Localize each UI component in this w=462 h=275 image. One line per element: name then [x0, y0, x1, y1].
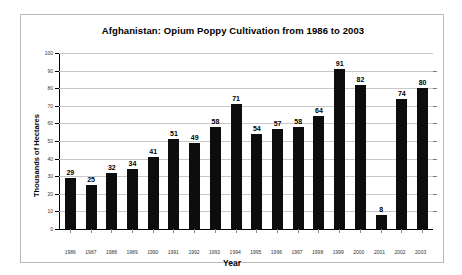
y-axis-tick-right: [433, 71, 437, 72]
x-axis-tick: [277, 229, 278, 233]
y-axis-tick-label: 100: [45, 50, 53, 56]
x-axis-tick: [381, 229, 382, 233]
y-axis-tick: [55, 229, 59, 230]
y-axis-tick: [55, 176, 59, 177]
bar[interactable]: 29: [65, 178, 76, 229]
x-axis-tick: [132, 229, 133, 233]
x-tick-slot: [350, 229, 371, 233]
y-axis-tick-right: [433, 106, 437, 107]
bar-slot: 91: [329, 53, 350, 229]
y-axis-tick-label: 50: [47, 138, 53, 144]
y-axis-tick-label: 80: [47, 85, 53, 91]
bar-value-label: 58: [294, 118, 302, 125]
y-axis-tick-label: 0: [50, 226, 53, 232]
x-tick-slot: [81, 229, 102, 233]
x-axis-tick-label: 1993: [204, 249, 225, 255]
bar[interactable]: 71: [231, 104, 242, 229]
y-axis-title: Thousands of Hectares: [30, 67, 42, 243]
bar[interactable]: 80: [417, 88, 428, 229]
x-tick-slot: [371, 229, 392, 233]
x-tick-slot: [122, 229, 143, 233]
bar[interactable]: 82: [355, 85, 366, 229]
bar[interactable]: 32: [106, 173, 117, 229]
x-tick-slot: [309, 229, 330, 233]
y-axis-tick: [55, 123, 59, 124]
bar[interactable]: 8: [376, 215, 387, 229]
x-tick-slot: [412, 229, 433, 233]
x-axis-tick: [70, 229, 71, 233]
bar-slot: 82: [350, 53, 371, 229]
x-axis-tick-label: 1986: [60, 249, 81, 255]
y-axis-tick: [55, 141, 59, 142]
y-axis-tick-right: [433, 194, 437, 195]
x-axis-tick: [111, 229, 112, 233]
bar[interactable]: 25: [86, 185, 97, 229]
bar-slot: 32: [101, 53, 122, 229]
y-axis-tick-right: [433, 211, 437, 212]
bar-slot: 41: [143, 53, 164, 229]
bar[interactable]: 49: [189, 143, 200, 229]
bar-value-label: 54: [253, 125, 261, 132]
y-axis-tick-label: 70: [47, 103, 53, 109]
x-axis-tick-label: 1987: [81, 249, 102, 255]
bar-slot: 25: [81, 53, 102, 229]
bar-value-label: 8: [379, 206, 383, 213]
bar-value-label: 49: [191, 134, 199, 141]
bar-value-label: 57: [274, 120, 282, 127]
bar-series: 29253234415149587154575864918287480: [60, 53, 433, 229]
y-axis-tick: [55, 71, 59, 72]
x-axis-tick: [422, 229, 423, 233]
x-tick-slot: [226, 229, 247, 233]
bar-value-label: 34: [129, 160, 137, 167]
bar[interactable]: 41: [148, 157, 159, 229]
bar[interactable]: 58: [210, 127, 221, 229]
bar[interactable]: 54: [251, 134, 262, 229]
bar[interactable]: 64: [313, 116, 324, 229]
chart-title: Afghanistan: Opium Poppy Cultivation fro…: [21, 25, 445, 36]
bar-slot: 51: [164, 53, 185, 229]
y-axis-tick-label: 60: [47, 120, 53, 126]
bar-value-label: 51: [170, 130, 178, 137]
x-axis-tick: [360, 229, 361, 233]
x-tick-slot: [164, 229, 185, 233]
x-axis-tick-label: 1990: [142, 249, 163, 255]
x-tick-slot: [392, 229, 413, 233]
bar-slot: 8: [371, 53, 392, 229]
x-axis-tick: [91, 229, 92, 233]
bar[interactable]: 58: [293, 127, 304, 229]
bar[interactable]: 51: [168, 139, 179, 229]
bar[interactable]: 34: [127, 169, 138, 229]
x-axis-tick-labels: 1986198719881989199019911992199319941995…: [60, 249, 431, 255]
x-axis-tick-label: 1996: [266, 249, 287, 255]
bar-slot: 80: [412, 53, 433, 229]
x-axis-tick: [256, 229, 257, 233]
bar[interactable]: 74: [396, 99, 407, 229]
y-axis-tick: [55, 88, 59, 89]
x-axis-tick: [298, 229, 299, 233]
x-axis-tick-label: 1989: [122, 249, 143, 255]
bar[interactable]: 57: [272, 129, 283, 229]
bar-value-label: 29: [66, 169, 74, 176]
x-axis-tick-label: 1988: [101, 249, 122, 255]
y-axis-tick-right: [433, 88, 437, 89]
bar-slot: 49: [184, 53, 205, 229]
y-axis-tick: [55, 194, 59, 195]
bar[interactable]: 91: [334, 69, 345, 229]
x-axis-tick: [318, 229, 319, 233]
x-axis-tick-label: 1991: [163, 249, 184, 255]
x-axis-tick: [173, 229, 174, 233]
bar-value-label: 71: [232, 95, 240, 102]
y-axis-tick-label: 40: [47, 156, 53, 162]
y-axis-tick: [55, 211, 59, 212]
y-axis-tick: [55, 159, 59, 160]
bar-value-label: 64: [315, 107, 323, 114]
bar-slot: 64: [309, 53, 330, 229]
bar-slot: 34: [122, 53, 143, 229]
bar-value-label: 32: [108, 164, 116, 171]
x-axis-tick-label: 1995: [245, 249, 266, 255]
x-axis-tick-label: 2002: [390, 249, 411, 255]
x-axis-title: Year: [21, 258, 443, 268]
y-axis-title-label: Thousands of Hectares: [32, 114, 41, 197]
bar-value-label: 58: [211, 118, 219, 125]
x-axis-tick: [153, 229, 154, 233]
